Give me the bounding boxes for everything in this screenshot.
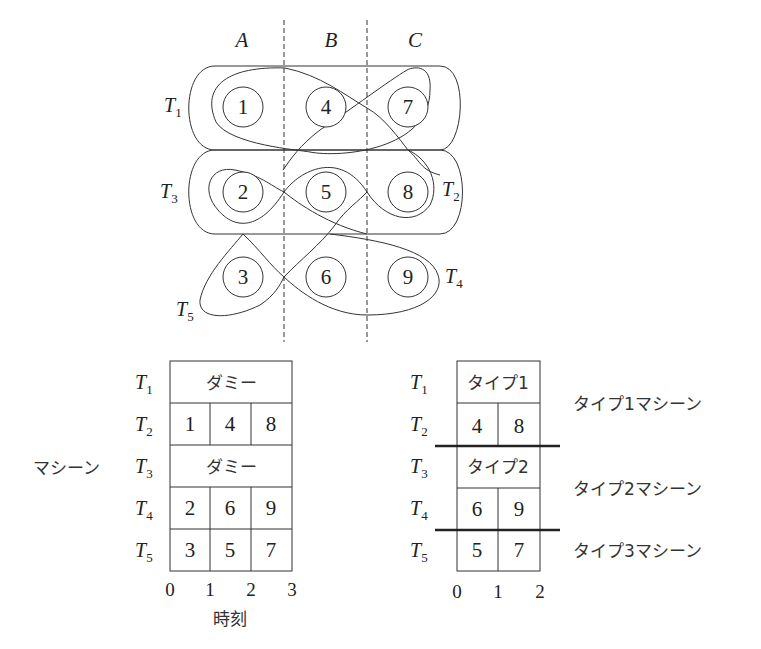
machine-label: マシーン xyxy=(33,458,100,478)
row-label-t4: T4 xyxy=(135,497,153,523)
cell: 4 xyxy=(472,414,483,438)
time-tick: 0 xyxy=(452,581,462,602)
loop-label-t2: T2 xyxy=(442,178,460,204)
cell: 6 xyxy=(225,496,236,520)
time-tick: 3 xyxy=(287,579,297,600)
cell: 2 xyxy=(185,496,196,520)
row-label-t2: T2 xyxy=(410,413,428,439)
node-label: 1 xyxy=(238,95,249,119)
row-label-t1: T1 xyxy=(135,371,153,397)
time-tick: 2 xyxy=(246,579,256,600)
cell: 3 xyxy=(185,538,196,562)
cell: 5 xyxy=(225,538,236,562)
cell: 8 xyxy=(514,414,525,438)
node-label: 7 xyxy=(403,95,414,119)
row-label-t3: T3 xyxy=(410,455,428,481)
dummy-cell: ダミー xyxy=(206,457,257,477)
loop-label-t4: T4 xyxy=(445,265,463,291)
cell: 1 xyxy=(185,412,196,436)
dummy-cell: ダミー xyxy=(206,373,257,393)
row-label-t5: T5 xyxy=(135,539,153,565)
group-label-type2: タイプ2マシーン xyxy=(573,479,702,499)
row-label-t2: T2 xyxy=(135,413,153,439)
diagram-canvas: A B C 1 4 7 2 5 8 3 6 9 xyxy=(0,0,761,649)
loop-label-t3: T3 xyxy=(160,180,178,206)
time-tick: 1 xyxy=(205,579,215,600)
time-tick: 2 xyxy=(535,581,545,602)
cell: 9 xyxy=(266,496,277,520)
type-cell: タイプ1 xyxy=(467,373,529,393)
loop-label-t1: T1 xyxy=(164,94,182,120)
type-cell: タイプ2 xyxy=(467,457,529,477)
column-label-b: B xyxy=(325,28,338,52)
loop-t4-b xyxy=(200,192,367,316)
node-label: 2 xyxy=(238,180,249,204)
node-label: 5 xyxy=(321,180,332,204)
row-label-t1: T1 xyxy=(410,371,428,397)
row-label-t3: T3 xyxy=(135,455,153,481)
cell: 4 xyxy=(225,412,236,436)
cell: 5 xyxy=(472,538,483,562)
node-label: 8 xyxy=(403,180,414,204)
row-label-t4: T4 xyxy=(410,497,428,523)
time-axis-label: 時刻 xyxy=(213,609,247,629)
node-label: 3 xyxy=(238,265,249,289)
group-label-type3: タイプ3マシーン xyxy=(573,541,702,561)
node-label: 6 xyxy=(321,265,332,289)
row-label-t5: T5 xyxy=(410,539,428,565)
cell: 7 xyxy=(266,538,277,562)
column-label-c: C xyxy=(408,28,423,52)
cell: 8 xyxy=(266,412,277,436)
node-label: 4 xyxy=(321,95,332,119)
node-label: 9 xyxy=(403,265,414,289)
time-tick: 1 xyxy=(493,581,503,602)
group-label-type1: タイプ1マシーン xyxy=(573,394,702,414)
loop-label-t5: T5 xyxy=(176,298,194,324)
cell: 6 xyxy=(472,497,483,521)
cell: 7 xyxy=(514,538,525,562)
cell: 9 xyxy=(514,497,525,521)
column-label-a: A xyxy=(234,28,249,52)
time-tick: 0 xyxy=(165,579,175,600)
